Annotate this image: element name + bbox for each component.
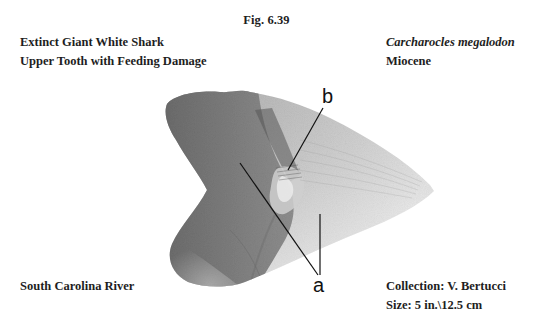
callout-label-b: b [322, 86, 333, 106]
tooth-photo [160, 85, 440, 295]
shark-tooth-figure [0, 0, 533, 325]
callout-label-a: a [313, 275, 324, 295]
